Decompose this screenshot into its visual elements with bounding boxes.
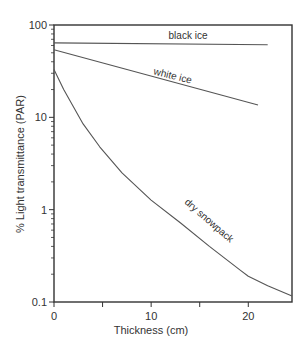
y-tick-label: 1 bbox=[41, 204, 47, 216]
x-tick-label: 20 bbox=[242, 310, 254, 322]
y-axis: 0.1110100 bbox=[29, 19, 54, 308]
x-axis: 01020 bbox=[51, 302, 254, 322]
y-tick-label: 0.1 bbox=[32, 296, 47, 308]
label-white-ice: white ice bbox=[152, 65, 194, 85]
x-tick-label: 10 bbox=[145, 310, 157, 322]
plot-frame bbox=[54, 25, 292, 302]
series-line-dry-snowpack bbox=[54, 70, 292, 297]
x-tick-label: 0 bbox=[51, 310, 57, 322]
y-tick-label: 10 bbox=[35, 111, 47, 123]
x-axis-title: Thickness (cm) bbox=[114, 324, 189, 336]
y-axis-title: % Light transmittance (PAR) bbox=[14, 95, 26, 233]
plot-border bbox=[54, 25, 292, 302]
y-tick-label: 100 bbox=[29, 19, 47, 31]
label-black-ice: black ice bbox=[169, 30, 208, 41]
label-dry-snowpack: dry snowpack bbox=[183, 196, 237, 245]
series-line-black-ice bbox=[54, 43, 268, 45]
transmittance-chart: 0.1110100 01020 black ice white ice dry … bbox=[0, 0, 304, 352]
series-line-white-ice bbox=[54, 50, 258, 105]
